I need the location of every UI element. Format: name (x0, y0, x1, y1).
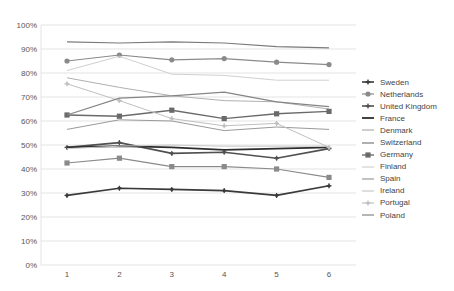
x-tick-label: 2 (117, 270, 122, 279)
y-tick-label: 30% (21, 189, 37, 198)
legend-label: Germany (380, 150, 413, 159)
series-lines (64, 42, 331, 198)
legend-swatch-icon (361, 149, 375, 161)
legend-swatch-icon (361, 137, 375, 149)
legend-label: Switzerland (380, 138, 421, 147)
legend-label: Ireland (380, 186, 404, 195)
legend-label: France (380, 114, 405, 123)
legend-swatch-icon (361, 173, 375, 185)
y-tick-label: 60% (21, 117, 37, 126)
y-tick-label: 100% (17, 21, 37, 30)
legend-item-united-kingdom: United Kingdom (361, 100, 437, 112)
y-tick-label: 70% (21, 93, 37, 102)
chart-legend: SwedenNetherlandsUnited KingdomFranceDen… (361, 76, 437, 221)
x-tick-label: 4 (222, 270, 227, 279)
legend-item-netherlands: Netherlands (361, 88, 437, 100)
legend-item-germany: Germany (361, 149, 437, 161)
series-germany-2 (64, 156, 331, 180)
legend-label: Netherlands (380, 90, 423, 99)
legend-item-poland: Poland (361, 209, 437, 221)
legend-item-finland: Finland (361, 161, 437, 173)
y-tick-label: 10% (21, 237, 37, 246)
legend-label: Finland (380, 162, 406, 171)
x-tick-label: 6 (327, 270, 332, 279)
legend-label: Poland (380, 211, 405, 220)
legend-label: Portugal (380, 198, 410, 207)
legend-item-sweden: Sweden (361, 76, 437, 88)
legend-swatch-icon (361, 197, 375, 209)
legend-swatch-icon (361, 100, 375, 112)
y-axis: 0%10%20%30%40%50%60%70%80%90%100% (17, 21, 37, 270)
legend-item-spain: Spain (361, 173, 437, 185)
x-tick-label: 1 (65, 270, 70, 279)
y-tick-label: 40% (21, 165, 37, 174)
legend-swatch-icon (361, 185, 375, 197)
legend-label: Spain (380, 174, 400, 183)
y-tick-label: 90% (21, 45, 37, 54)
legend-item-portugal: Portugal (361, 197, 437, 209)
legend-label: Sweden (380, 78, 409, 87)
legend-label: United Kingdom (380, 102, 437, 111)
legend-item-denmark: Denmark (361, 124, 437, 136)
legend-label: Denmark (380, 126, 412, 135)
x-tick-label: 3 (170, 270, 175, 279)
legend-swatch-icon (361, 161, 375, 173)
legend-item-france: France (361, 112, 437, 124)
legend-swatch-icon (361, 76, 375, 88)
legend-swatch-icon (361, 112, 375, 124)
legend-item-switzerland: Switzerland (361, 136, 437, 148)
series-switzerland (67, 42, 329, 48)
y-tick-label: 0% (25, 261, 37, 270)
legend-swatch-icon (361, 88, 375, 100)
y-tick-label: 50% (21, 141, 37, 150)
y-tick-label: 80% (21, 69, 37, 78)
series-sweden (65, 183, 332, 198)
legend-swatch-icon (361, 124, 375, 136)
x-tick-label: 5 (274, 270, 279, 279)
series-poland (67, 92, 329, 115)
series-germany (64, 108, 331, 122)
legend-item-ireland: Ireland (361, 185, 437, 197)
y-tick-label: 20% (21, 213, 37, 222)
legend-swatch-icon (361, 209, 375, 221)
x-axis: 123456 (65, 270, 332, 279)
series-united-kingdom (65, 140, 332, 161)
